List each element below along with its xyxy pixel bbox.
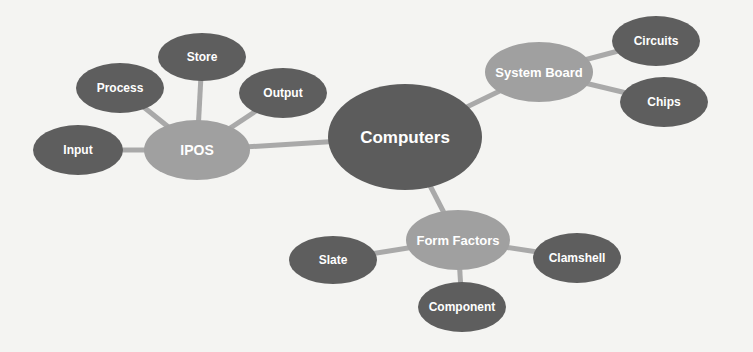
leaf-node-process: Process: [76, 63, 164, 113]
node-layer: ComputersIPOSInputProcessStoreOutputSyst…: [33, 16, 708, 332]
leaf-node-circuits-label: Circuits: [634, 34, 679, 48]
leaf-node-output: Output: [239, 68, 327, 118]
leaf-node-component-label: Component: [429, 300, 496, 314]
branch-node-system-board: System Board: [485, 42, 593, 102]
branch-node-form-factors-label: Form Factors: [416, 233, 499, 248]
leaf-node-chips: Chips: [620, 77, 708, 127]
leaf-node-clamshell-label: Clamshell: [549, 251, 606, 265]
leaf-node-process-label: Process: [97, 81, 144, 95]
mind-map-diagram: ComputersIPOSInputProcessStoreOutputSyst…: [0, 0, 753, 352]
leaf-node-slate-label: Slate: [319, 253, 348, 267]
leaf-node-chips-label: Chips: [647, 95, 681, 109]
leaf-node-clamshell: Clamshell: [533, 233, 621, 283]
branch-node-ipos: IPOS: [144, 120, 250, 180]
leaf-node-store: Store: [158, 33, 246, 81]
leaf-node-slate: Slate: [289, 236, 377, 284]
root-node-computers-label: Computers: [360, 128, 450, 147]
branch-node-form-factors: Form Factors: [406, 210, 510, 270]
leaf-node-input: Input: [33, 125, 123, 175]
leaf-node-circuits: Circuits: [612, 16, 700, 66]
leaf-node-component: Component: [418, 282, 506, 332]
leaf-node-input-label: Input: [63, 143, 92, 157]
mind-map-canvas: ComputersIPOSInputProcessStoreOutputSyst…: [0, 0, 753, 352]
branch-node-system-board-label: System Board: [495, 65, 582, 80]
leaf-node-store-label: Store: [187, 50, 218, 64]
leaf-node-output-label: Output: [263, 86, 302, 100]
branch-node-ipos-label: IPOS: [180, 142, 213, 158]
root-node-computers: Computers: [328, 84, 482, 190]
